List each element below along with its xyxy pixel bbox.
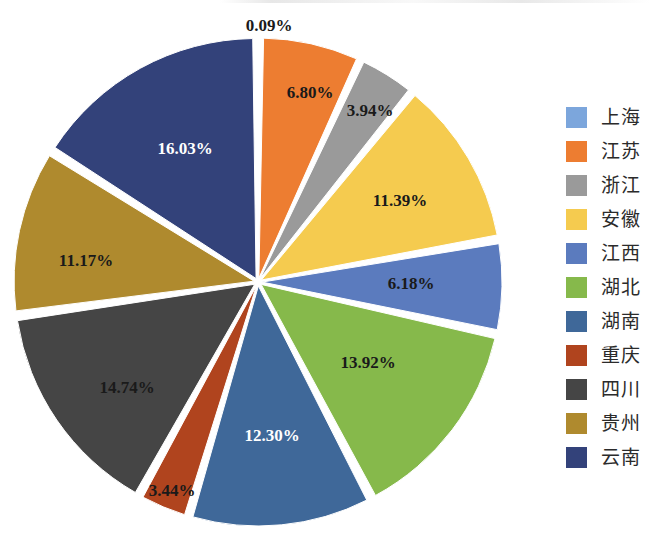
pie-slice-label: 13.92% — [340, 353, 395, 372]
legend-item[interactable]: 安徽 — [566, 202, 663, 236]
legend-item[interactable]: 浙江 — [566, 168, 663, 202]
legend-item-label: 江西 — [601, 244, 641, 263]
pie-slice-label: 3.94% — [347, 101, 394, 120]
pie-slice-label: 6.80% — [287, 83, 334, 102]
legend-item-label: 上海 — [601, 108, 641, 127]
legend-item[interactable]: 江苏 — [566, 134, 663, 168]
pie-slice-label: 11.17% — [59, 251, 113, 270]
legend-color-swatch — [566, 209, 587, 230]
legend-color-swatch — [566, 141, 587, 162]
legend-item-label: 湖南 — [601, 312, 641, 331]
pie-slice-label: 6.18% — [388, 274, 435, 293]
legend-item-label: 四川 — [601, 380, 641, 399]
legend-color-swatch — [566, 447, 587, 468]
legend-item[interactable]: 江西 — [566, 236, 663, 270]
legend-color-swatch — [566, 413, 587, 434]
legend-item-label: 湖北 — [601, 278, 641, 297]
legend-item[interactable]: 上海 — [566, 100, 663, 134]
chart-legend: 上海江苏浙江安徽江西湖北湖南重庆四川贵州云南 — [566, 100, 663, 474]
legend-color-swatch — [566, 345, 587, 366]
legend-item[interactable]: 云南 — [566, 440, 663, 474]
legend-item[interactable]: 湖北 — [566, 270, 663, 304]
pie-chart-figure: 0.09%6.80%3.94%11.39%6.18%13.92%12.30%3.… — [0, 0, 663, 533]
legend-color-swatch — [566, 277, 587, 298]
legend-item-label: 云南 — [601, 448, 641, 467]
legend-color-swatch — [566, 243, 587, 264]
pie-slice-label: 0.09% — [246, 16, 293, 35]
legend-color-swatch — [566, 379, 587, 400]
legend-item[interactable]: 四川 — [566, 372, 663, 406]
legend-item-label: 重庆 — [601, 346, 641, 365]
legend-item[interactable]: 湖南 — [566, 304, 663, 338]
legend-color-swatch — [566, 175, 587, 196]
pie-slice-label: 11.39% — [373, 191, 427, 210]
legend-item-label: 江苏 — [601, 142, 641, 161]
pie-slice[interactable] — [258, 38, 259, 278]
legend-item-label: 贵州 — [601, 414, 641, 433]
legend-item[interactable]: 贵州 — [566, 406, 663, 440]
pie-slice-label: 3.44% — [149, 481, 196, 500]
pie-slice-label: 14.74% — [99, 378, 154, 397]
legend-item-label: 安徽 — [601, 210, 641, 229]
pie-chart-canvas: 0.09%6.80%3.94%11.39%6.18%13.92%12.30%3.… — [0, 0, 663, 533]
legend-item-label: 浙江 — [601, 176, 641, 195]
legend-item[interactable]: 重庆 — [566, 338, 663, 372]
pie-slice-label: 12.30% — [244, 426, 299, 445]
legend-color-swatch — [566, 107, 587, 128]
pie-slice-label: 16.03% — [157, 139, 212, 158]
legend-color-swatch — [566, 311, 587, 332]
